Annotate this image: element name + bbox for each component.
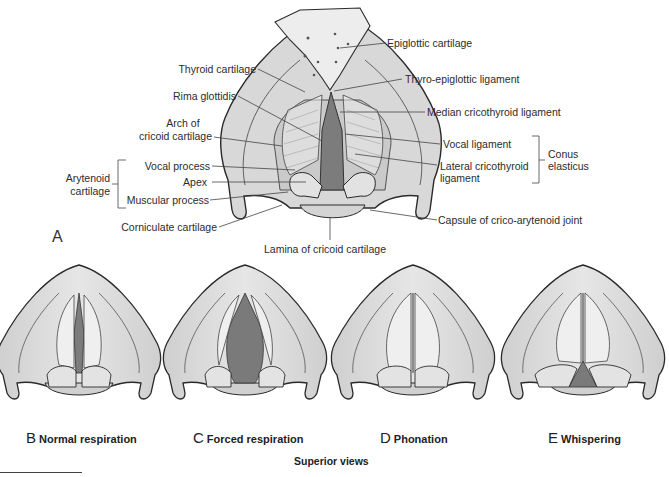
label-rima-glottidis: Rima glottidis <box>166 90 236 102</box>
view-b-larynx <box>0 265 161 399</box>
label-lateral-cricothyroid-line2: ligament <box>440 172 480 184</box>
label-arch-of-cricoid-line1: Arch of <box>138 117 228 129</box>
caption-view-c: CForced respiration <box>193 429 303 446</box>
panel-letter-a: A <box>52 228 63 246</box>
label-corniculate-cartilage: Corniculate cartilage <box>100 221 217 233</box>
label-lateral-cricothyroid-line1: Lateral cricothyroid <box>440 160 529 172</box>
view-c-larynx <box>163 265 326 399</box>
label-muscular-process: Muscular process <box>120 194 209 206</box>
label-vocal-process: Vocal process <box>130 160 210 172</box>
caption-view-b: BNormal respiration <box>26 429 137 446</box>
label-capsule-crico-arytenoid-joint: Capsule of crico-arytenoid joint <box>438 214 582 226</box>
label-arch-of-cricoid-line2: cricoid cartilage <box>118 130 212 142</box>
label-lamina-cricoid-cartilage: Lamina of cricoid cartilage <box>264 243 386 255</box>
caption-text-b: Normal respiration <box>39 433 137 445</box>
caption-letter-e: E <box>548 429 558 446</box>
caption-text-c: Forced respiration <box>207 433 304 445</box>
larynx-diagram <box>0 0 669 477</box>
footnote-rule <box>0 472 82 473</box>
caption-text-d: Phonation <box>394 433 448 445</box>
label-thyroid-cartilage: Thyroid cartilage <box>176 63 256 75</box>
label-conus-elasticus-line2: elasticus <box>548 160 589 172</box>
label-conus-elasticus-line1: Conus <box>548 148 578 160</box>
label-median-cricothyroid-ligament: Median cricothyroid ligament <box>427 106 561 118</box>
caption-view-d: DPhonation <box>380 429 448 446</box>
superior-views-caption: Superior views <box>294 455 369 467</box>
label-arytenoid-cartilage-line2: cartilage <box>56 185 110 197</box>
view-e-larynx <box>501 265 664 399</box>
caption-letter-c: C <box>193 429 204 446</box>
label-arytenoid-cartilage-line1: Arytenoid <box>56 172 110 184</box>
caption-letter-b: B <box>26 429 36 446</box>
caption-letter-d: D <box>380 429 391 446</box>
view-d-larynx <box>331 265 494 399</box>
label-vocal-ligament: Vocal ligament <box>443 138 511 150</box>
label-apex: Apex <box>150 176 207 188</box>
label-epiglottic-cartilage: Epiglottic cartilage <box>387 37 472 49</box>
label-thyro-epiglottic-ligament: Thyro-epiglottic ligament <box>405 73 519 85</box>
caption-text-e: Whispering <box>561 433 621 445</box>
caption-view-e: EWhispering <box>548 429 621 446</box>
